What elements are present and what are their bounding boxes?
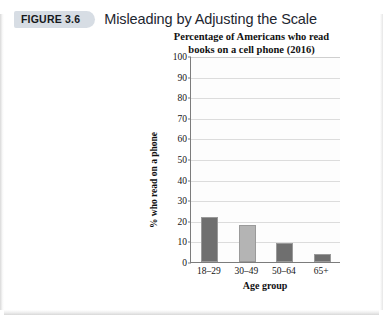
y-axis-tick-label: 40 [178, 176, 188, 186]
gridline [191, 160, 340, 161]
y-axis-label: % who read on a phone [149, 132, 159, 228]
x-axis-label: Age group [190, 280, 340, 291]
x-axis-ticks: 18–2930–4950–6465+ [190, 266, 340, 280]
y-axis-tick-label: 20 [178, 217, 188, 227]
y-axis-tick-mark [188, 201, 191, 202]
y-axis-tick-mark [188, 118, 191, 119]
chart-title-line-2: books on a cell phone (2016) [134, 44, 369, 57]
chart-title: Percentage of Americans who read books o… [134, 31, 369, 56]
plot-wrap: 0102030405060708090100 [190, 57, 340, 263]
y-axis-tick-label: 90 [178, 73, 188, 83]
y-axis-tick-label: 30 [178, 196, 188, 206]
bar [239, 225, 256, 262]
gridline [191, 98, 340, 99]
y-axis-tick-label: 60 [178, 134, 188, 144]
gridline [191, 119, 340, 120]
y-axis-tick-label: 0 [182, 258, 187, 268]
x-axis-tick-label: 65+ [314, 266, 329, 276]
x-axis-tick-label: 30–49 [234, 266, 258, 276]
y-axis-tick-mark [188, 242, 191, 243]
figure-container: FIGURE 3.6 Misleading by Adjusting the S… [0, 0, 383, 315]
figure-number-badge: FIGURE 3.6 [14, 11, 95, 28]
y-axis-tick-label: 50 [178, 155, 188, 165]
y-axis-tick-mark [188, 98, 191, 99]
bar [276, 243, 293, 262]
y-axis-tick-label: 10 [178, 237, 188, 247]
figure-header: FIGURE 3.6 Misleading by Adjusting the S… [14, 8, 369, 30]
chart-panel: Percentage of Americans who read books o… [14, 30, 369, 305]
y-axis-tick-label: 80 [178, 93, 188, 103]
gridline [191, 139, 340, 140]
bar [314, 254, 331, 262]
y-axis-tick-mark [188, 160, 191, 161]
gridline [191, 57, 340, 58]
y-axis-tick-label: 100 [173, 52, 187, 62]
page-edge-bottom-shadow [4, 310, 379, 315]
plot-area: 0102030405060708090100 [190, 57, 340, 263]
page-edge-left-shadow [0, 14, 4, 310]
gridline [191, 201, 340, 202]
y-axis-tick-mark [188, 57, 191, 58]
y-axis-tick-label: 70 [178, 114, 188, 124]
x-axis-tick-label: 18–29 [197, 266, 221, 276]
y-axis-tick-mark [188, 77, 191, 78]
bar [201, 217, 218, 262]
y-axis-tick-mark [188, 139, 191, 140]
y-axis-tick-mark [188, 263, 191, 264]
y-axis-tick-mark [188, 221, 191, 222]
x-axis-tick-label: 50–64 [272, 266, 296, 276]
figure-caption: Misleading by Adjusting the Scale [104, 11, 317, 27]
y-axis-tick-mark [188, 180, 191, 181]
chart-title-line-1: Percentage of Americans who read [134, 31, 369, 44]
gridline [191, 181, 340, 182]
gridline [191, 78, 340, 79]
